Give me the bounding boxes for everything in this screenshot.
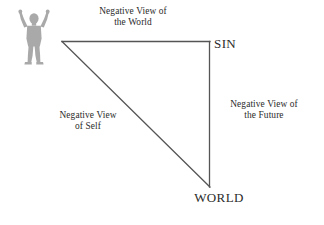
diagram-canvas: Negative View of the World Negative View… <box>0 0 324 225</box>
vertex-label-sin: SIN <box>214 36 264 51</box>
edge-label-negative-view-of-the-world: Negative View of the World <box>83 6 183 28</box>
edge-label-negative-view-of-the-future: Negative View of the Future <box>213 99 315 121</box>
vertex-label-world: WORLD <box>174 190 264 205</box>
person-raised-arms-icon <box>14 8 54 66</box>
edge-label-negative-view-of-self: Negative View of Self <box>38 110 138 132</box>
